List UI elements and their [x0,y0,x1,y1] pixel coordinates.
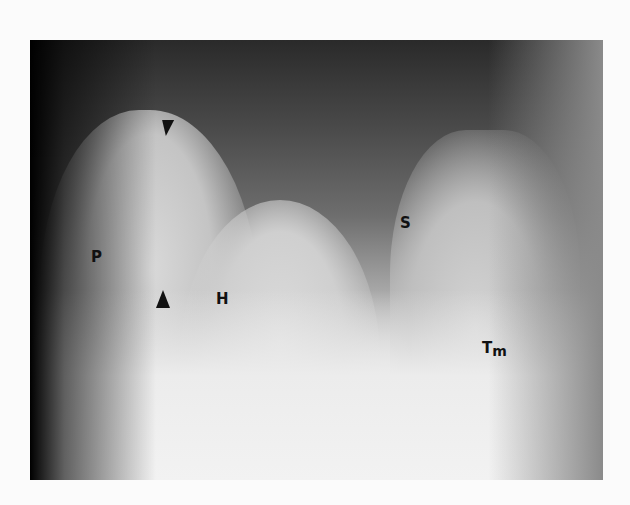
radiograph-image [30,40,603,480]
right-gray-edge [30,40,603,480]
label-tm-sub: m [492,343,507,359]
label-h: H [216,292,229,307]
arrowhead-down-icon [160,120,174,136]
label-tm-main: T [482,339,492,357]
label-tm: Tm [482,341,507,356]
label-p: P [91,250,102,265]
label-s: S [400,216,411,231]
arrowhead-up-icon [156,290,170,308]
